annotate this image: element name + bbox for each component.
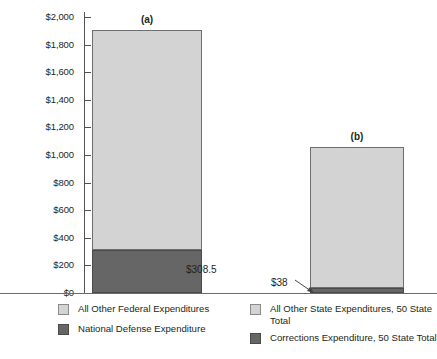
legend-swatch-light-icon bbox=[250, 304, 261, 315]
y-axis-tick-mark bbox=[84, 238, 91, 239]
y-axis-spine bbox=[84, 12, 85, 293]
y-axis-tick-mark bbox=[84, 100, 91, 101]
value-label-leader-arrow bbox=[294, 278, 316, 294]
legend-column-state: All Other State Expenditures, 50 State T… bbox=[250, 303, 437, 352]
legend-swatch-dark-icon bbox=[250, 333, 261, 344]
y-axis-tick-mark bbox=[84, 210, 91, 211]
bar-a-tag: (a) bbox=[92, 14, 202, 25]
legend-item-label: All Other State Expenditures, 50 State T… bbox=[270, 303, 437, 326]
legend-item: All Other State Expenditures, 50 State T… bbox=[250, 303, 437, 326]
bar-a-light-segment bbox=[92, 30, 202, 250]
legend-item-label: Corrections Expenditure, 50 State Total bbox=[270, 332, 437, 344]
y-axis-tick-label: $800 bbox=[12, 178, 74, 188]
legend-item: All Other Federal Expenditures bbox=[58, 303, 248, 317]
bar-b-value-label: $38 bbox=[271, 277, 288, 288]
bar-a-value-label: $308.5 bbox=[186, 264, 217, 275]
y-axis-tick-mark bbox=[84, 155, 91, 156]
y-axis-tick-mark bbox=[84, 183, 91, 184]
y-axis-tick-mark bbox=[84, 17, 91, 18]
legend-item: National Defense Expenditure bbox=[58, 323, 248, 337]
y-axis-tick-mark bbox=[84, 45, 91, 46]
bar-b-tag: (b) bbox=[310, 131, 404, 142]
legend-item-label: All Other Federal Expenditures bbox=[78, 303, 248, 315]
y-axis-tick-mark bbox=[84, 72, 91, 73]
y-axis-tick-label: $1,200 bbox=[12, 122, 74, 132]
legend-swatch-dark-icon bbox=[58, 324, 69, 335]
bar-b-dark-segment bbox=[310, 288, 404, 293]
y-axis-tick-label: $1,800 bbox=[12, 40, 74, 50]
x-axis-baseline bbox=[0, 293, 437, 294]
y-axis-tick-label: $600 bbox=[12, 205, 74, 215]
legend-column-federal: All Other Federal Expenditures National … bbox=[58, 303, 248, 343]
y-axis-tick-label: $200 bbox=[12, 260, 74, 270]
legend-item-label: National Defense Expenditure bbox=[78, 323, 248, 335]
y-axis-tick-mark bbox=[84, 265, 91, 266]
stacked-bar-chart: Billions $2,000$1,800$1,600$1,400$1,200$… bbox=[0, 0, 437, 359]
y-axis-tick-label: $1,400 bbox=[12, 95, 74, 105]
bar-b-light-segment bbox=[310, 147, 404, 288]
legend-swatch-light-icon bbox=[58, 304, 69, 315]
y-axis-tick-label: $2,000 bbox=[12, 12, 74, 22]
chart-legend: All Other Federal Expenditures National … bbox=[0, 303, 437, 359]
y-axis-tick-label: $400 bbox=[12, 233, 74, 243]
y-axis-tick-mark bbox=[84, 127, 91, 128]
y-axis-tick-label: $1,600 bbox=[12, 67, 74, 77]
legend-item: Corrections Expenditure, 50 State Total bbox=[250, 332, 437, 346]
y-axis-tick-label: $1,000 bbox=[12, 150, 74, 160]
